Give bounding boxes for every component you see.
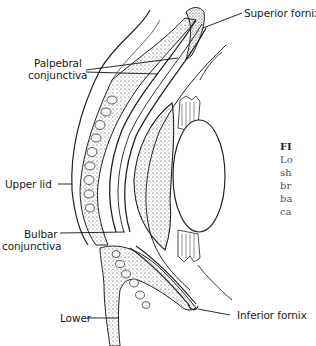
caption-line: ca	[280, 205, 293, 218]
label-lower: Lower	[60, 312, 91, 324]
label-bulbar-conjunctiva: conjunctiva	[2, 240, 61, 252]
anatomy-illustration	[0, 0, 316, 346]
figure-caption: FI Lo sh br ba ca	[280, 140, 293, 218]
caption-line: sh	[280, 166, 293, 179]
label-palpebral: Palpebral	[34, 57, 82, 69]
caption-line: ba	[280, 192, 293, 205]
caption-line: Lo	[280, 153, 293, 166]
caption-fig-label: FI	[280, 140, 293, 153]
label-superior-fornix: Superior fornix	[244, 7, 316, 19]
cornea	[134, 103, 174, 250]
caption-line: br	[280, 179, 293, 192]
label-bulbar: Bulbar	[24, 228, 58, 240]
label-palpebral-conjunctiva: conjunctiva	[28, 69, 87, 81]
superior-fornix	[186, 8, 204, 61]
ciliary-body-lower	[178, 230, 200, 262]
lens	[173, 120, 225, 232]
label-upper-lid: Upper lid	[5, 178, 52, 190]
label-inferior-fornix: Inferior fornix	[237, 309, 307, 321]
eyelid-diagram: Superior fornix Palpebral conjunctiva Up…	[0, 0, 316, 346]
